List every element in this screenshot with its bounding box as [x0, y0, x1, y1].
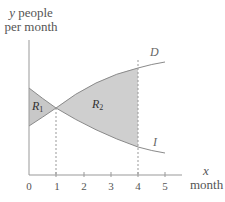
x-tick-0: 0: [26, 180, 32, 192]
x-tick-3: 3: [108, 180, 114, 192]
x-tick-4: 4: [135, 180, 141, 192]
curve-d-label: D: [149, 45, 159, 59]
x-tick-2: 2: [81, 180, 87, 192]
diagram-canvas: 0 1 2 3 4 5 D I R1 R2: [0, 0, 225, 202]
x-tick-1: 1: [54, 180, 60, 192]
x-tick-5: 5: [162, 180, 168, 192]
curve-i-label: I: [152, 135, 158, 149]
